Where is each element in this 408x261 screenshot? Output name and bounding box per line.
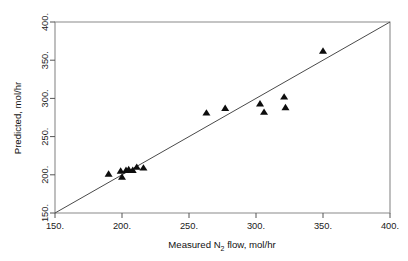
x-tick-label-5: 400.: [381, 221, 399, 231]
x-tick-label-0: 150.: [46, 221, 64, 231]
x-axis-title-post: flow, mol/hr: [224, 239, 276, 250]
chart-figure: 150. 200. 250. 300. 350. 400. 150. 200. …: [0, 0, 408, 261]
x-tick-label-1: 200.: [113, 221, 131, 231]
data-point: [280, 93, 288, 99]
data-point: [139, 164, 147, 170]
y-tick-label-1: 200.: [40, 166, 50, 184]
x-axis-ticks: [55, 213, 390, 218]
x-axis-title: Measured N2 flow, mol/hr: [168, 239, 276, 252]
scatter-plot-svg: 150. 200. 250. 300. 350. 400. 150. 200. …: [0, 0, 408, 261]
data-point: [256, 100, 264, 106]
x-tick-label-2: 250.: [180, 221, 198, 231]
data-point: [281, 104, 289, 110]
y-tick-labels: 150. 200. 250. 300. 350. 400.: [40, 13, 50, 222]
y-axis-title: Predicted, mol/hr: [12, 81, 23, 154]
x-axis-title-pre: Measured N: [168, 239, 220, 250]
data-markers-layer: [105, 47, 327, 179]
y-tick-label-5: 400.: [40, 13, 50, 31]
parity-line: [55, 22, 390, 213]
data-point: [105, 170, 113, 176]
data-point: [221, 105, 229, 111]
x-tick-label-3: 300.: [247, 221, 265, 231]
x-tick-labels: 150. 200. 250. 300. 350. 400.: [46, 221, 399, 231]
y-tick-label-3: 300.: [40, 89, 50, 107]
y-tick-label-2: 250.: [40, 128, 50, 146]
y-tick-label-4: 350.: [40, 51, 50, 69]
y-tick-label-0: 150.: [40, 204, 50, 222]
data-point: [202, 109, 210, 115]
x-tick-label-4: 350.: [314, 221, 332, 231]
y-axis-ticks: [50, 22, 55, 213]
data-point: [319, 47, 327, 53]
data-point: [260, 108, 268, 114]
